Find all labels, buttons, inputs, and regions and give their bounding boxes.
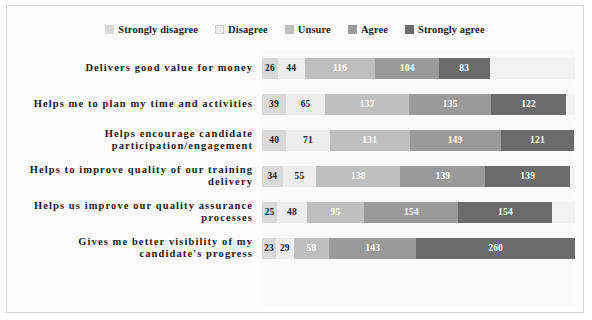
bar-segment-value: 138 [351, 171, 366, 181]
bar-segment[interactable]: 149 [410, 130, 501, 151]
legend-item-label: Disagree [228, 24, 268, 35]
bar-segment[interactable]: 137 [325, 94, 409, 115]
bar-segment-value: 154 [498, 207, 513, 217]
legend-swatch-icon [348, 25, 357, 34]
legend-item-label: Agree [361, 24, 388, 35]
bar-segment[interactable]: 58 [294, 238, 329, 259]
chart-row: Helps me to plan my time and activities3… [15, 86, 575, 122]
bar-segment[interactable]: 26 [262, 58, 278, 79]
stacked-bar[interactable]: 264411610483 [262, 58, 575, 79]
bar-segment[interactable]: 95 [307, 202, 365, 223]
bar-segment-value: 139 [520, 171, 535, 181]
bar-segment-value: 139 [435, 171, 450, 181]
bar-segment-value: 154 [404, 207, 419, 217]
bar-segment[interactable]: 65 [286, 94, 326, 115]
bar-segment-value: 135 [443, 99, 458, 109]
legend-item-label: Strongly agree [418, 24, 485, 35]
bar-segment[interactable]: 25 [262, 202, 277, 223]
legend-item[interactable]: Unsure [285, 24, 331, 35]
chart-row: Gives me better visibility of my candida… [15, 230, 575, 266]
category-label: Helps to improve quality of our training… [15, 164, 262, 189]
stacked-bar[interactable]: 4071131149121 [262, 130, 575, 151]
bar-segment[interactable]: 29 [276, 238, 294, 259]
bar-segment-value: 39 [269, 99, 279, 109]
category-label: Delivers good value for money [15, 62, 262, 75]
chart-container: Strongly disagreeDisagreeUnsureAgreeStro… [6, 5, 584, 313]
stacked-bar[interactable]: 232958143260 [262, 238, 575, 259]
bar-segment[interactable]: 71 [286, 130, 329, 151]
bar-segment[interactable]: 139 [485, 166, 570, 187]
chart-row: Helps encourage candidate participation/… [15, 122, 575, 158]
bar-segment-value: 58 [306, 243, 316, 253]
bar-segment-value: 131 [362, 135, 377, 145]
bar-segment[interactable]: 121 [501, 130, 575, 151]
bar-segment[interactable]: 138 [316, 166, 400, 187]
bar-segment[interactable]: 39 [262, 94, 286, 115]
bar-segment-value: 71 [303, 135, 313, 145]
bar-segment[interactable]: 104 [375, 58, 438, 79]
chart-row: Delivers good value for money26441161048… [15, 50, 575, 86]
category-label: Helps encourage candidate participation/… [15, 128, 262, 153]
bar-segment[interactable]: 48 [277, 202, 306, 223]
bar-segment[interactable]: 131 [330, 130, 410, 151]
stacked-bar[interactable]: 3965137135122 [262, 94, 575, 115]
chart-legend: Strongly disagreeDisagreeUnsureAgreeStro… [7, 24, 583, 35]
bar-segment-value: 122 [521, 99, 536, 109]
bar-segment-value: 143 [365, 243, 380, 253]
bar-segment-value: 23 [264, 243, 274, 253]
bar-segment[interactable]: 143 [329, 238, 416, 259]
bar-segment-value: 149 [448, 135, 463, 145]
bar-segment-value: 55 [295, 171, 305, 181]
bar-segment-value: 121 [530, 135, 545, 145]
bar-segment[interactable]: 154 [458, 202, 552, 223]
stacked-bar[interactable]: 254895154154 [262, 202, 575, 223]
bar-segment-value: 29 [280, 243, 290, 253]
chart-row: Helps us improve our quality assurance p… [15, 194, 575, 230]
bar-segment-value: 83 [459, 63, 469, 73]
bar-segment-value: 104 [400, 63, 415, 73]
legend-item-label: Unsure [298, 24, 331, 35]
bar-segment-value: 116 [333, 63, 347, 73]
bar-segment[interactable]: 116 [305, 58, 376, 79]
bar-rows: Delivers good value for money26441161048… [15, 50, 575, 266]
category-label: Gives me better visibility of my candida… [15, 236, 262, 261]
bar-segment[interactable]: 55 [283, 166, 317, 187]
legend-item[interactable]: Strongly agree [405, 24, 485, 35]
legend-item-label: Strongly disagree [118, 24, 198, 35]
bar-segment[interactable]: 139 [400, 166, 485, 187]
bar-segment[interactable]: 83 [439, 58, 490, 79]
stacked-bar[interactable]: 3455138139139 [262, 166, 575, 187]
chart-row: Helps to improve quality of our training… [15, 158, 575, 194]
bar-segment-value: 137 [360, 99, 375, 109]
legend-swatch-icon [405, 25, 414, 34]
bar-segment[interactable]: 135 [409, 94, 491, 115]
legend-item[interactable]: Disagree [215, 24, 268, 35]
legend-item[interactable]: Strongly disagree [105, 24, 198, 35]
category-label: Helps us improve our quality assurance p… [15, 200, 262, 225]
bar-segment[interactable]: 23 [262, 238, 276, 259]
category-label: Helps me to plan my time and activities [15, 98, 262, 111]
legend-swatch-icon [285, 25, 294, 34]
bar-segment[interactable]: 34 [262, 166, 283, 187]
bar-segment-value: 34 [267, 171, 277, 181]
bar-segment[interactable]: 40 [262, 130, 286, 151]
legend-swatch-icon [215, 25, 224, 34]
bar-segment[interactable]: 154 [364, 202, 458, 223]
bar-segment-value: 40 [269, 135, 279, 145]
bar-segment[interactable]: 260 [416, 238, 575, 259]
plot-area: Delivers good value for money26441161048… [15, 50, 575, 306]
bar-segment[interactable]: 44 [278, 58, 305, 79]
bar-segment-value: 65 [301, 99, 311, 109]
legend-swatch-icon [105, 25, 114, 34]
bar-segment-value: 95 [331, 207, 341, 217]
bar-segment-value: 25 [265, 207, 275, 217]
bar-segment-value: 44 [286, 63, 296, 73]
bar-segment-value: 260 [488, 243, 503, 253]
legend-item[interactable]: Agree [348, 24, 388, 35]
bar-segment-value: 26 [265, 63, 275, 73]
bar-segment-value: 48 [287, 207, 297, 217]
bar-segment[interactable]: 122 [491, 94, 565, 115]
